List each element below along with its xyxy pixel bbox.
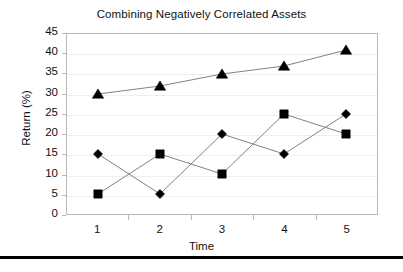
data-point-marker-square (94, 190, 102, 198)
series-asset-b (94, 110, 350, 198)
x-axis-tick-mark (191, 215, 192, 220)
series-line (98, 114, 346, 194)
series-layer (67, 34, 377, 214)
series-portfolio (92, 45, 351, 98)
y-axis-tick-label: 15 (30, 146, 58, 158)
y-axis-tick-mark (62, 215, 66, 216)
y-axis-tick-label: 45 (30, 25, 58, 37)
data-point-marker-square (156, 150, 164, 158)
y-axis-tick-label: 30 (30, 86, 58, 98)
data-point-marker-triangle (278, 61, 289, 70)
data-point-marker-square (342, 130, 350, 138)
x-axis-tick-label: 2 (140, 223, 180, 235)
x-axis-tick-label: 5 (327, 223, 367, 235)
x-axis-title: Time (0, 240, 403, 252)
x-axis-tick-label: 4 (264, 223, 304, 235)
chart-title: Combining Negatively Correlated Assets (0, 8, 403, 20)
plot-area (66, 33, 378, 215)
data-point-marker-diamond (341, 109, 350, 118)
chart-figure: Combining Negatively Correlated Assets R… (0, 0, 403, 272)
y-axis-tick-label: 5 (30, 187, 58, 199)
data-point-marker-square (218, 170, 226, 178)
x-axis-tick-mark (316, 215, 317, 220)
data-point-marker-triangle (340, 45, 351, 54)
data-point-marker-diamond (279, 149, 288, 158)
data-point-marker-square (280, 110, 288, 118)
x-axis-tick-label: 1 (77, 223, 117, 235)
y-axis-tick-label: 0 (30, 207, 58, 219)
x-axis-tick-mark (253, 215, 254, 220)
y-axis-tick-label: 10 (30, 167, 58, 179)
y-axis-tick-label: 20 (30, 126, 58, 138)
y-axis-tick-label: 25 (30, 106, 58, 118)
series-line (98, 114, 346, 194)
y-axis-tick-label: 40 (30, 45, 58, 57)
x-axis-tick-label: 3 (202, 223, 242, 235)
data-point-marker-diamond (93, 149, 102, 158)
bottom-divider-rule (0, 256, 403, 259)
y-axis-tick-label: 35 (30, 65, 58, 77)
x-axis-tick-mark (128, 215, 129, 220)
